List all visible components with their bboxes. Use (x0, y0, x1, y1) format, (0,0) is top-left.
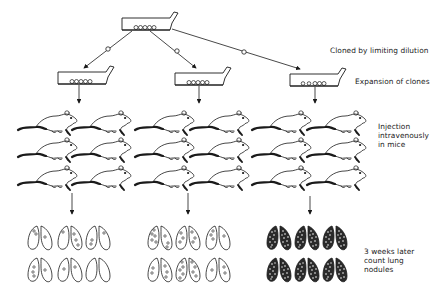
parent-culture-flask-icon (122, 12, 178, 30)
flask-to-mice-arrows (79, 85, 315, 103)
mouse-icon (135, 166, 194, 190)
lung-icon (28, 226, 52, 250)
mouse-icon (190, 111, 249, 135)
lung-icon (206, 258, 230, 282)
mouse-icon (18, 111, 77, 135)
lung-icon (58, 258, 82, 282)
mouse-icon (307, 111, 366, 135)
lung-icon (267, 226, 291, 250)
mouse-icon (72, 166, 131, 190)
lung-group-low (28, 226, 110, 282)
lung-icon (176, 258, 200, 282)
lung-icon (148, 226, 172, 250)
lung-icon (58, 226, 82, 250)
clone-flask-3-icon (290, 68, 346, 86)
lung-icon (323, 258, 347, 282)
mice-to-lungs-arrows (72, 193, 310, 214)
lung-icon (323, 226, 347, 250)
mouse-icon (252, 111, 311, 135)
limiting-dilution-arrows (84, 29, 300, 69)
mouse-group-1 (18, 111, 131, 190)
mouse-icon (135, 138, 194, 162)
step-label-injection: Injection intravenously in mice (378, 122, 429, 149)
mouse-icon (190, 166, 249, 190)
lung-icon (86, 226, 110, 250)
mouse-icon (72, 138, 131, 162)
step-label-cloning: Cloned by limiting dilution (330, 46, 428, 55)
mouse-group-3 (252, 111, 366, 190)
clone-flask-1-icon (58, 66, 114, 84)
mouse-icon (72, 111, 131, 135)
mouse-icon (307, 166, 366, 190)
mouse-icon (135, 111, 194, 135)
lung-icon (28, 258, 52, 282)
lung-icon (148, 258, 172, 282)
lung-icon (267, 258, 291, 282)
lung-icon (295, 226, 319, 250)
mouse-icon (252, 166, 311, 190)
mouse-icon (18, 166, 77, 190)
mouse-icon (18, 138, 77, 162)
lung-icon (295, 258, 319, 282)
lung-icon (176, 226, 200, 250)
mouse-icon (307, 138, 366, 162)
mouse-icon (190, 138, 249, 162)
step-label-expansion: Expansion of clones (355, 77, 430, 86)
lung-group-medium (148, 226, 230, 282)
lung-icon (86, 258, 110, 282)
mouse-group-2 (135, 111, 249, 190)
clone-flask-2-icon (175, 67, 231, 85)
step-label-count-nodules: 3 weeks later count lung nodules (364, 247, 414, 274)
lung-icon (206, 226, 230, 250)
lung-group-high (267, 226, 347, 282)
mouse-icon (252, 138, 311, 162)
